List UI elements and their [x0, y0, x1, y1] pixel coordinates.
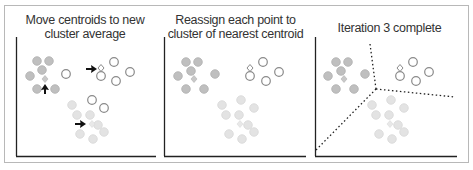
- cluster-gray: [324, 58, 370, 94]
- cluster-open: [396, 58, 434, 86]
- cluster-gray: [174, 58, 220, 94]
- cluster-light: [218, 96, 259, 144]
- panel-2: [164, 37, 306, 157]
- panel-1: [16, 37, 156, 157]
- cluster-light: [368, 96, 409, 144]
- cluster-open: [246, 58, 284, 86]
- kmeans-diagram: [0, 0, 473, 170]
- panel-3: [315, 37, 457, 157]
